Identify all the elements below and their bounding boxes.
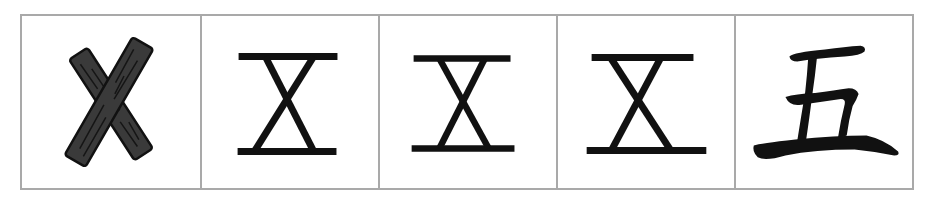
panel-ancient-form-1: ancient form 1 <box>200 16 378 188</box>
modern-five-character <box>736 16 910 188</box>
panel-modern-character: modern character 五 <box>734 16 910 188</box>
panel-ancient-form-2: ancient form 2 <box>378 16 556 188</box>
ancient-five-glyph-1 <box>202 16 378 188</box>
crossed-sticks-icon <box>22 16 200 188</box>
panel-ancient-form-3: ancient form 3 <box>556 16 734 188</box>
ancient-five-glyph-3 <box>558 16 734 188</box>
character-evolution-strip: crossed sticks ancient form 1 ancient fo… <box>20 14 914 190</box>
ancient-five-glyph-2 <box>380 16 556 188</box>
panel-crossed-sticks: crossed sticks <box>22 16 200 188</box>
